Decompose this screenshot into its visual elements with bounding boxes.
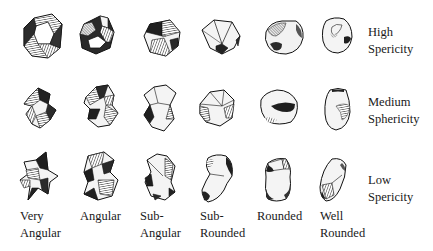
grain-shape-icon (320, 15, 354, 55)
grain-high-rounded (262, 18, 306, 56)
row-label-line1: High (368, 24, 413, 41)
grain-shape-icon (140, 83, 178, 133)
row-label-line1: Medium (368, 94, 419, 111)
grain-shape-icon (80, 150, 120, 202)
col-label-line1: Very (20, 208, 61, 225)
col-label-line2: Angular (140, 225, 181, 242)
row-label-line2: Sphericity (368, 111, 419, 128)
grain-low-sub-rounded (200, 152, 236, 204)
grain-high-sub-angular (142, 18, 182, 58)
grain-medium-sub-rounded (198, 88, 236, 128)
grain-shape-icon (262, 18, 306, 56)
grain-low-rounded (262, 155, 294, 203)
col-label-sub-rounded: Sub- Rounded (200, 208, 245, 242)
grain-shape-icon (18, 150, 62, 202)
grain-medium-angular (82, 83, 120, 129)
col-label-rounded: Rounded (257, 208, 302, 225)
grain-high-very-angular (22, 12, 64, 60)
grain-low-well-rounded (318, 157, 348, 203)
grain-shape-icon (143, 152, 177, 202)
col-label-line1: Sub- (140, 208, 181, 225)
col-label-line2: Rounded (320, 225, 365, 242)
grain-medium-rounded (257, 88, 299, 128)
grain-medium-sub-angular (140, 83, 178, 133)
grain-low-very-angular (18, 150, 62, 202)
grain-shape-icon (78, 14, 116, 56)
grain-shape-icon (82, 83, 120, 129)
col-label-line1: Rounded (257, 208, 302, 225)
grain-shape-icon (142, 18, 182, 58)
row-label-low-sphericity: Low Spericity (368, 172, 413, 206)
grain-shape-icon (257, 88, 299, 128)
col-label-sub-angular: Sub- Angular (140, 208, 181, 242)
grain-shape-icon (262, 155, 294, 203)
grain-shape-icon (22, 12, 64, 60)
grain-low-angular (80, 150, 120, 202)
col-label-well-rounded: Well Rounded (320, 208, 365, 242)
grain-shape-icon (200, 18, 244, 56)
col-label-line2: Angular (20, 225, 61, 242)
row-label-line2: Spericity (368, 41, 413, 58)
grain-shape-icon (200, 152, 236, 204)
col-label-line1: Angular (80, 208, 121, 225)
grain-high-angular (78, 14, 116, 56)
row-label-line1: Low (368, 172, 413, 189)
grain-shape-icon (318, 157, 348, 203)
grain-shape-icon (198, 88, 236, 128)
roundness-sphericity-diagram: High Spericity Medium Sphericity Low Spe… (0, 0, 433, 251)
grain-shape-icon (322, 86, 352, 132)
col-label-angular: Angular (80, 208, 121, 225)
grain-high-sub-rounded (200, 18, 244, 56)
row-label-medium-sphericity: Medium Sphericity (368, 94, 419, 128)
col-label-very-angular: Very Angular (20, 208, 61, 242)
row-label-line2: Spericity (368, 189, 413, 206)
grain-low-sub-angular (143, 152, 177, 202)
grain-medium-very-angular (22, 86, 58, 130)
col-label-line1: Well (320, 208, 365, 225)
col-label-line1: Sub- (200, 208, 245, 225)
col-label-line2: Rounded (200, 225, 245, 242)
grain-high-well-rounded (320, 15, 354, 55)
grain-medium-well-rounded (322, 86, 352, 132)
grain-shape-icon (22, 86, 58, 130)
row-label-high-sphericity: High Spericity (368, 24, 413, 58)
